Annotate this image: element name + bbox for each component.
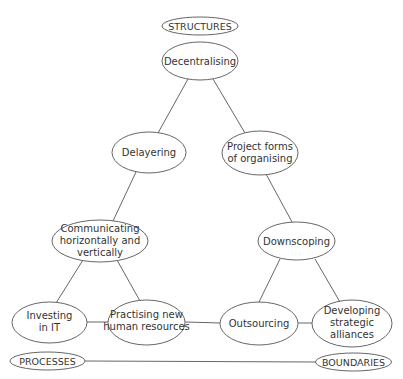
node-downscoping-label: Downscoping — [263, 236, 330, 247]
node-developing-line1: Developing — [324, 305, 381, 316]
node-practising-line1: Practising new — [110, 309, 183, 320]
node-communicating-line2: horizontally and — [60, 235, 141, 246]
node-project-forms-line1: Project forms — [227, 141, 293, 152]
node-investing-it: Investing in IT — [12, 302, 87, 343]
edge-project-forms-downscoping — [266, 174, 292, 222]
node-decentralising: Decentralising — [162, 42, 238, 80]
edge-decentralising-project-forms — [213, 79, 245, 133]
node-decentralising-label: Decentralising — [164, 56, 236, 67]
node-communicating-line1: Communicating — [60, 223, 139, 234]
node-investing-line1: Investing — [27, 310, 73, 321]
edge-processes-boundaries — [85, 361, 316, 362]
node-investing-line2: in IT — [39, 322, 61, 333]
node-outsourcing: Outsourcing — [220, 302, 298, 345]
node-communicating-line3: vertically — [77, 247, 123, 258]
node-developing-alliances: Developing strategic alliances — [312, 300, 392, 347]
node-practising-line2: human resources — [103, 321, 190, 332]
concept-diagram: STRUCTURES Decentralising Delayering Pro… — [0, 0, 403, 379]
node-project-forms-line2: of organising — [227, 153, 292, 164]
edge-practising-outsourcing — [185, 322, 221, 323]
node-delayering: Delayering — [112, 132, 186, 173]
node-practising-hr: Practising new human resources — [103, 300, 190, 345]
edge-delayering-communicating — [113, 172, 136, 221]
node-downscoping: Downscoping — [258, 222, 335, 260]
node-delayering-label: Delayering — [122, 147, 176, 158]
edge-communicating-investing — [56, 260, 83, 303]
node-project-forms: Project forms of organising — [222, 131, 298, 175]
corner-processes: PROCESSES — [10, 352, 85, 370]
corner-structures-label: STRUCTURES — [168, 21, 231, 32]
node-communicating: Communicating horizontally and verticall… — [52, 220, 148, 262]
edge-downscoping-outsourcing — [259, 259, 280, 302]
corner-boundaries: BOUNDARIES — [316, 353, 392, 371]
corner-boundaries-label: BOUNDARIES — [322, 357, 385, 368]
edge-downscoping-developing — [315, 259, 340, 302]
edge-communicating-practising — [117, 260, 140, 301]
node-outsourcing-label: Outsourcing — [229, 318, 290, 329]
node-developing-line2: strategic — [330, 317, 374, 328]
edge-decentralising-delayering — [158, 79, 188, 133]
corner-structures: STRUCTURES — [162, 17, 238, 35]
corner-processes-label: PROCESSES — [19, 356, 76, 367]
node-developing-line3: alliances — [330, 329, 374, 340]
